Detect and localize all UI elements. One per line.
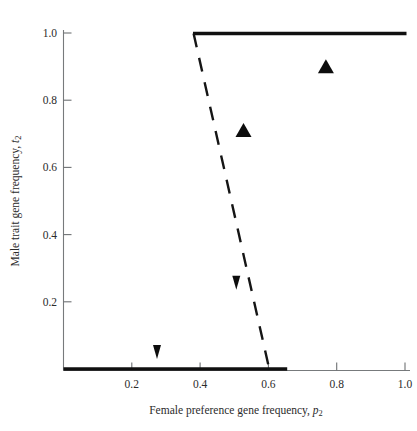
figure-panel: 1.0 0.8 0.6 0.4 0.2 0.2 0.4 0.6 0.8 1.0 [0,0,417,431]
gene-frequency-chart: 1.0 0.8 0.6 0.4 0.2 0.2 0.4 0.6 0.8 1.0 [0,0,417,431]
y-axis-title: Male trait gene frequency, t2 [9,136,23,267]
unstable-equilibrium-line [194,34,270,371]
y-axis-title-text: Male trait gene frequency, [9,146,22,267]
x-tick-label-0.2: 0.2 [125,378,140,390]
x-axis-title: Female preference gene frequency, p2 [149,404,323,418]
x-axis-title-text: Female preference gene frequency, [149,404,310,417]
data-curves [64,34,407,371]
y-tick-labels: 1.0 0.8 0.6 0.4 0.2 [43,27,58,308]
y-tick-label-0.6: 0.6 [43,161,58,173]
y-axis-title-sub: 2 [14,136,23,140]
down-triangle-1 [232,276,240,290]
down-triangle-2 [153,345,161,359]
x-tick-labels: 0.2 0.4 0.6 0.8 1.0 [125,378,413,390]
x-tick-label-0.4: 0.4 [193,378,208,390]
x-axis-title-sub: 2 [319,409,323,418]
y-tick-label-0.8: 0.8 [43,94,58,106]
up-triangle-2 [318,59,334,73]
x-tick-label-0.8: 0.8 [330,378,345,390]
y-tick-label-0.4: 0.4 [43,229,58,241]
y-tick-marks [64,33,72,302]
data-markers [153,59,334,359]
x-tick-label-1.0: 1.0 [398,378,413,390]
x-tick-label-0.6: 0.6 [261,378,276,390]
axes-group [64,30,411,371]
y-tick-label-1.0: 1.0 [43,27,58,39]
up-triangle-1 [236,123,252,137]
y-tick-label-0.2: 0.2 [43,296,58,308]
